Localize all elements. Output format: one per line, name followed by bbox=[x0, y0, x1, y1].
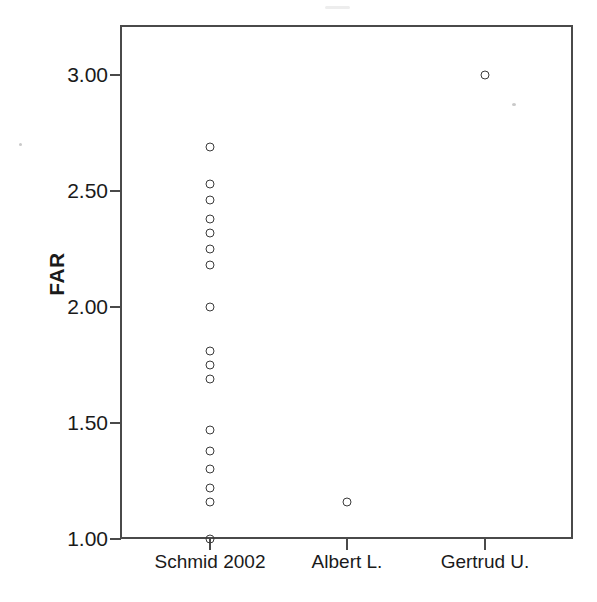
data-point bbox=[206, 361, 215, 370]
data-point bbox=[206, 303, 215, 312]
data-point bbox=[206, 483, 215, 492]
y-tick-label: 2.00 bbox=[46, 296, 108, 317]
data-point bbox=[481, 71, 490, 80]
data-point bbox=[343, 497, 352, 506]
dot-plot-figure: FAR 1.001.502.002.503.00 Schmid 2002Albe… bbox=[0, 0, 597, 602]
data-point bbox=[206, 497, 215, 506]
y-tick-label: 1.50 bbox=[46, 412, 108, 433]
x-tick-mark bbox=[346, 539, 348, 550]
data-point bbox=[206, 374, 215, 383]
data-point bbox=[206, 425, 215, 434]
data-point bbox=[206, 245, 215, 254]
plot-frame bbox=[120, 25, 573, 539]
x-tick-label-0: Schmid 2002 bbox=[155, 552, 266, 572]
data-point bbox=[206, 535, 215, 544]
data-point bbox=[206, 180, 215, 189]
x-tick-mark bbox=[484, 539, 486, 550]
y-tick-label: 3.00 bbox=[46, 64, 108, 85]
data-point bbox=[206, 228, 215, 237]
data-point bbox=[206, 196, 215, 205]
scan-speckle-icon bbox=[325, 6, 350, 9]
data-point bbox=[206, 214, 215, 223]
x-tick-label-2: Gertrud U. bbox=[441, 552, 530, 572]
data-point bbox=[206, 446, 215, 455]
y-axis-tick-labels: 1.001.502.002.503.00 bbox=[46, 0, 108, 602]
data-point bbox=[206, 261, 215, 270]
scan-speckle-icon bbox=[19, 143, 22, 146]
data-point bbox=[206, 347, 215, 356]
y-tick-label: 2.50 bbox=[46, 180, 108, 201]
data-point bbox=[206, 142, 215, 151]
x-tick-label-1: Albert L. bbox=[312, 552, 383, 572]
y-tick-label: 1.00 bbox=[46, 528, 108, 549]
data-point bbox=[206, 465, 215, 474]
